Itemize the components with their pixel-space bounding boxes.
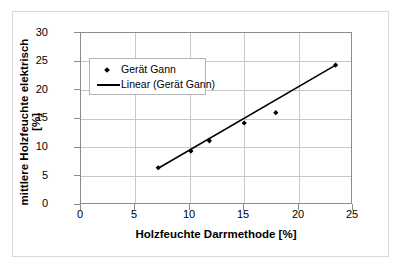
x-tick-mark-5 — [134, 204, 135, 210]
x-tick-mark-20 — [298, 204, 299, 210]
legend-label-geraet-gann: Gerät Gann — [121, 63, 176, 76]
chart-figure: 30 25 20 15 10 5 0 0 5 10 15 20 25 — [0, 0, 402, 271]
x-axis-title: Holzfeuchte Darrmethode [%] — [80, 228, 352, 240]
legend-label-linear-geraet-gann: Linear (Gerät Gann) — [121, 78, 215, 91]
x-tick-label-10: 10 — [169, 209, 209, 220]
x-tick-label-25: 25 — [332, 209, 372, 220]
x-tick-label-5: 5 — [114, 209, 154, 220]
x-tick-label-0: 0 — [60, 209, 100, 220]
line-segment-icon — [95, 78, 121, 91]
x-tick-mark-25 — [352, 204, 353, 210]
data-point — [273, 110, 278, 115]
x-tick-label-20: 20 — [278, 209, 318, 220]
y-axis-title: mittlere Holzfeuchte elektrisch [%] — [18, 32, 42, 212]
x-tick-label-15: 15 — [223, 209, 263, 220]
data-point — [156, 165, 161, 170]
x-tick-mark-10 — [189, 204, 190, 210]
data-point — [188, 149, 193, 154]
diamond-marker-icon — [95, 63, 121, 76]
legend-entry-geraet-gann: Gerät Gann — [95, 62, 200, 77]
x-tick-mark-15 — [243, 204, 244, 210]
legend-entry-linear-geraet-gann: Linear (Gerät Gann) — [95, 77, 200, 92]
x-tick-mark-0 — [80, 204, 81, 210]
chart-legend: Gerät Gann Linear (Gerät Gann) — [89, 58, 206, 95]
data-point — [242, 120, 247, 125]
